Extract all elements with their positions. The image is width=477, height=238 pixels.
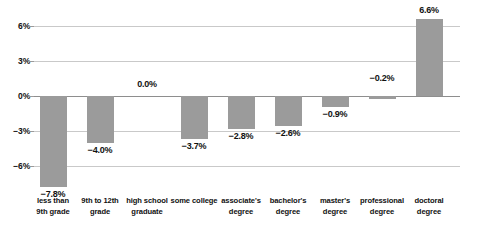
bar-doctoral-degree: [416, 19, 443, 96]
tick-stub-3: [29, 61, 34, 62]
y-tick-label-neg3: −3%: [2, 127, 30, 136]
category-label-doctoral-degree: doctoral degree: [402, 196, 456, 218]
bar-professional-degree: [369, 96, 396, 99]
category-line-2: graduate: [120, 207, 174, 218]
category-label-masters-degree: master's degree: [308, 196, 362, 218]
value-label-some-college: −3.7%: [166, 142, 222, 151]
category-label-less-than-9th-grade: less than 9th grade: [26, 196, 80, 218]
plot-area: −7.8% −4.0% 0.0% −3.7% −2.8% −2.6% −0.9%…: [34, 18, 460, 186]
category-line-1: high school: [120, 196, 174, 207]
category-line-1: less than: [26, 196, 80, 207]
bar-9th-to-12th-grade: [87, 96, 114, 143]
tick-stub-0: [29, 96, 34, 97]
tick-stub-neg3: [29, 131, 34, 132]
category-line-1: 9th to 12th: [73, 196, 127, 207]
x-axis-category-labels: less than 9th grade 9th to 12th grade hi…: [34, 196, 460, 236]
bar-masters-degree: [322, 96, 349, 107]
category-line-2: degree: [402, 207, 456, 218]
category-label-9th-to-12th-grade: 9th to 12th grade: [73, 196, 127, 218]
gridline-3: [34, 61, 460, 62]
category-line-1: bachelor's: [261, 196, 315, 207]
bar-associates-degree: [228, 96, 255, 129]
category-label-professional-degree: professional degree: [355, 196, 409, 218]
category-line-2: grade: [73, 207, 127, 218]
y-tick-label-neg6: −6%: [2, 162, 30, 171]
y-axis-tick-labels: 6% 3% 0% −3% −6%: [0, 18, 30, 186]
value-label-doctoral-degree: 6.6%: [401, 6, 457, 15]
category-line-1: doctoral: [402, 196, 456, 207]
category-label-bachelors-degree: bachelor's degree: [261, 196, 315, 218]
category-line-1: master's: [308, 196, 362, 207]
category-line-1: associate's: [214, 196, 268, 207]
category-label-associates-degree: associate's degree: [214, 196, 268, 218]
y-tick-label-0: 0%: [2, 92, 30, 101]
category-line-2: degree: [355, 207, 409, 218]
category-line-2: degree: [214, 207, 268, 218]
category-line-1: professional: [355, 196, 409, 207]
bar-chart: 6% 3% 0% −3% −6%: [0, 0, 477, 238]
category-line-2: 9th grade: [26, 207, 80, 218]
value-label-high-school-graduate: 0.0%: [119, 80, 175, 89]
category-label-some-college: some college: [167, 196, 221, 207]
category-line-2: degree: [308, 207, 362, 218]
gridline-6: [34, 26, 460, 27]
y-tick-label-3: 3%: [2, 57, 30, 66]
gridline-neg6: [34, 166, 460, 167]
value-label-masters-degree: −0.9%: [307, 110, 363, 119]
value-label-professional-degree: −0.2%: [354, 74, 410, 83]
category-label-high-school-graduate: high school graduate: [120, 196, 174, 218]
tick-stub-neg6: [29, 166, 34, 167]
category-line-1: some college: [167, 196, 221, 207]
value-label-bachelors-degree: −2.6%: [260, 129, 316, 138]
bar-less-than-9th-grade: [40, 96, 67, 187]
y-tick-label-6: 6%: [2, 22, 30, 31]
tick-stub-6: [29, 26, 34, 27]
category-line-2: degree: [261, 207, 315, 218]
bar-some-college: [181, 96, 208, 139]
value-label-9th-to-12th-grade: −4.0%: [72, 146, 128, 155]
bar-bachelors-degree: [275, 96, 302, 126]
